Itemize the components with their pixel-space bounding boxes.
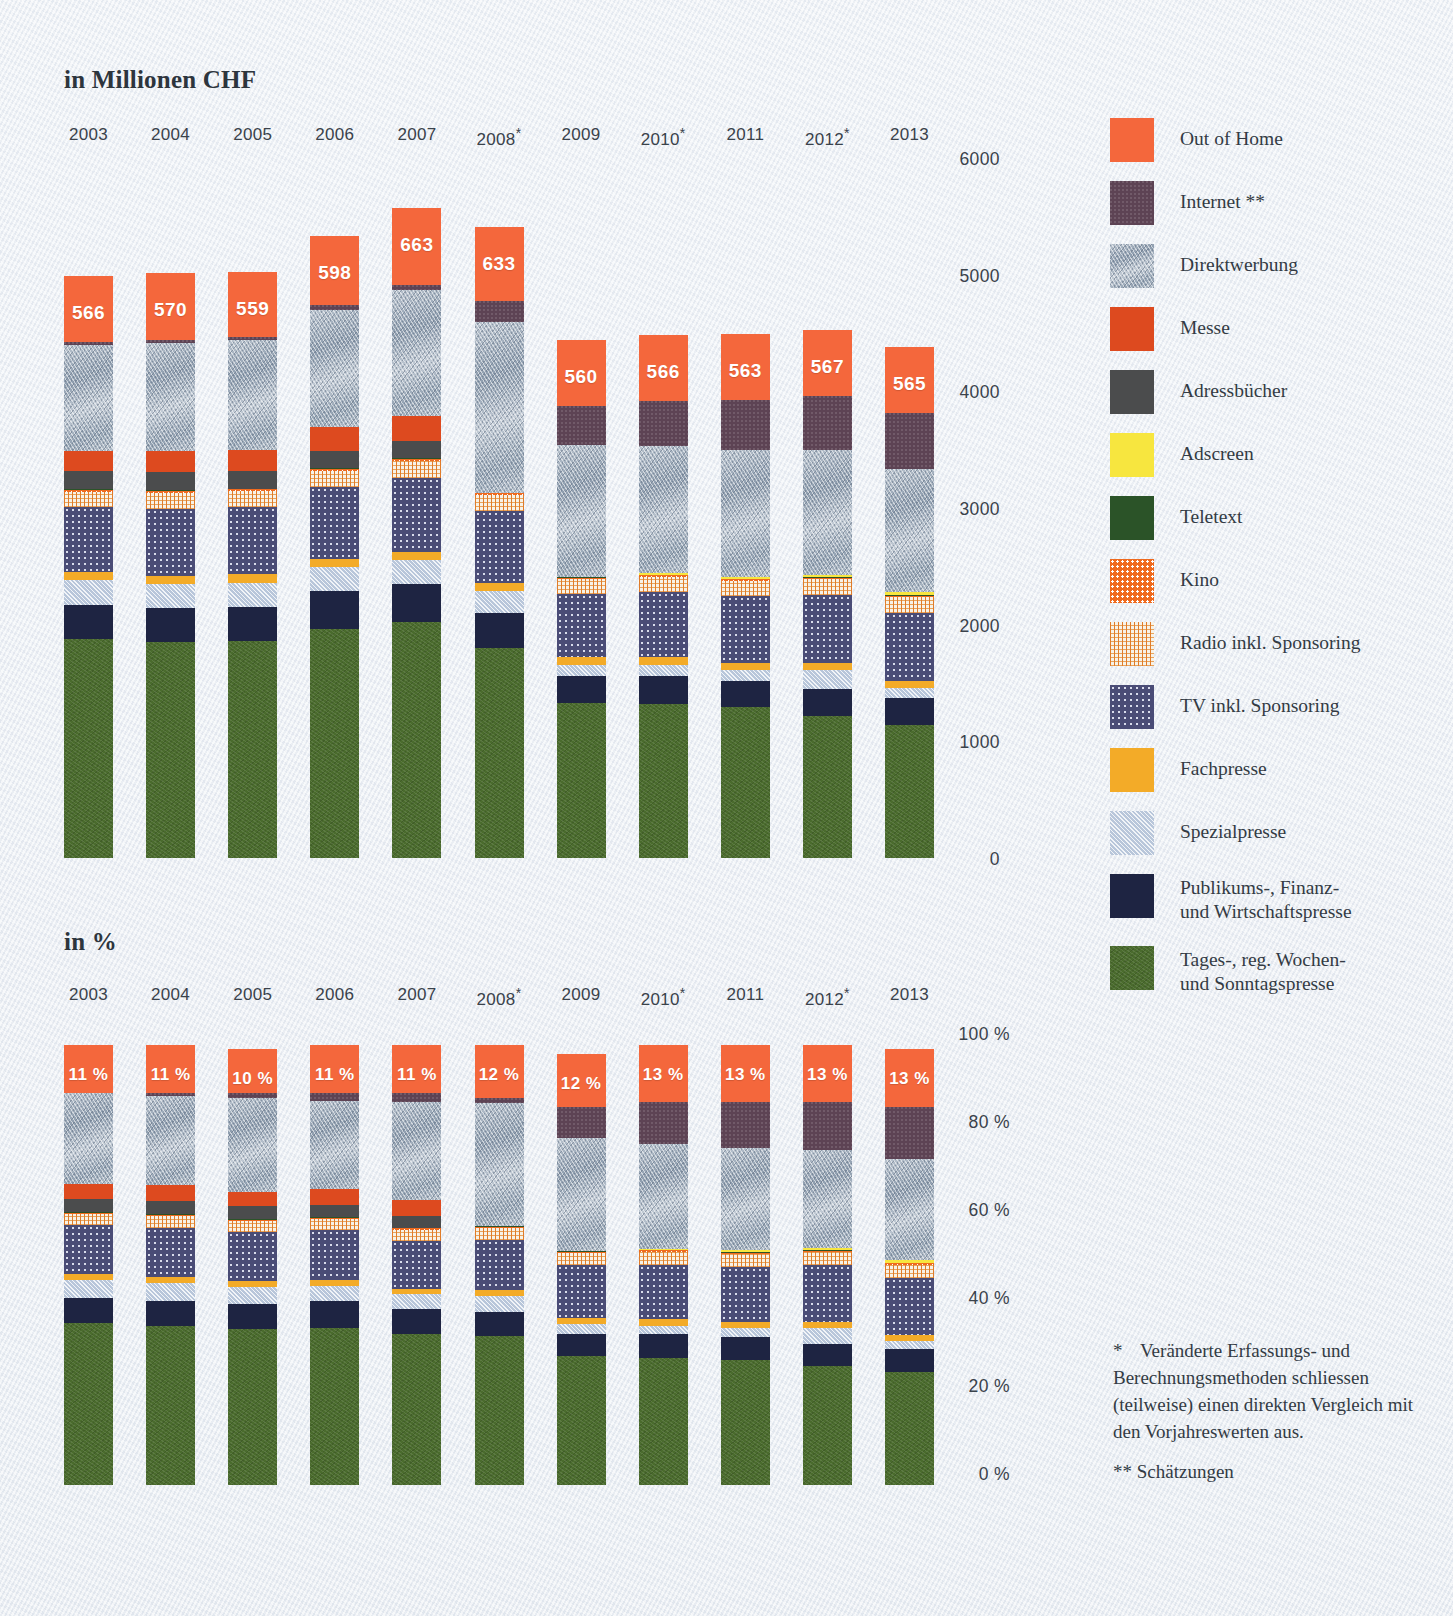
segment-tv-2009[interactable] (557, 1265, 606, 1317)
segment-spez-2010*[interactable] (639, 665, 688, 676)
legend-item-ads[interactable]: Adscreen (1110, 433, 1440, 496)
segment-ooh-2005[interactable]: 559 (228, 272, 277, 337)
bar-2007[interactable]: 11 % (392, 1045, 441, 1485)
segment-spez-2011[interactable] (721, 1328, 770, 1337)
segment-dir-2007[interactable] (392, 1102, 441, 1200)
segment-dir-2008*[interactable] (475, 1103, 524, 1226)
segment-fach-2005[interactable] (228, 574, 277, 582)
segment-tv-2007[interactable] (392, 478, 441, 553)
bar-2003[interactable]: 566 (64, 276, 113, 858)
segment-ooh-2006[interactable]: 598 (310, 236, 359, 306)
segment-spez-2005[interactable] (228, 583, 277, 607)
segment-dir-2005[interactable] (228, 1098, 277, 1192)
segment-radio-2012*[interactable] (803, 579, 852, 595)
segment-adr-2003[interactable] (64, 471, 113, 489)
segment-tv-2004[interactable] (146, 1228, 195, 1277)
segment-tages-2013[interactable] (885, 725, 934, 858)
segment-dir-2012*[interactable] (803, 1150, 852, 1249)
segment-tv-2010*[interactable] (639, 1265, 688, 1320)
legend-item-spez[interactable]: Spezialpresse (1110, 811, 1440, 874)
segment-dir-2007[interactable] (392, 290, 441, 416)
segment-tages-2004[interactable] (146, 642, 195, 858)
segment-tv-2004[interactable] (146, 509, 195, 576)
segment-tages-2007[interactable] (392, 1334, 441, 1485)
bar-2013[interactable]: 565 (885, 347, 934, 858)
segment-ooh-2005[interactable]: 10 % (228, 1049, 277, 1093)
segment-ooh-2008*[interactable]: 633 (475, 227, 524, 301)
segment-spez-2003[interactable] (64, 1280, 113, 1298)
segment-ooh-2013[interactable]: 13 % (885, 1049, 934, 1106)
bar-2011[interactable]: 563 (721, 334, 770, 858)
legend-item-kino[interactable]: Kino (1110, 559, 1440, 622)
segment-pub-2006[interactable] (310, 1301, 359, 1327)
segment-tv-2008*[interactable] (475, 511, 524, 582)
segment-tv-2010*[interactable] (639, 592, 688, 657)
bar-2004[interactable]: 570 (146, 273, 195, 858)
segment-adr-2005[interactable] (228, 1206, 277, 1219)
segment-fach-2003[interactable] (64, 572, 113, 580)
segment-tages-2011[interactable] (721, 707, 770, 858)
segment-tv-2006[interactable] (310, 487, 359, 559)
segment-adr-2007[interactable] (392, 1216, 441, 1227)
segment-radio-2010*[interactable] (639, 1252, 688, 1265)
segment-messe-2005[interactable] (228, 450, 277, 470)
segment-radio-2011[interactable] (721, 1254, 770, 1267)
segment-dir-2003[interactable] (64, 1093, 113, 1184)
bar-2008*[interactable]: 633 (475, 227, 524, 858)
segment-pub-2012*[interactable] (803, 689, 852, 716)
segment-adr-2003[interactable] (64, 1199, 113, 1212)
segment-fach-2012*[interactable] (803, 663, 852, 671)
segment-spez-2008*[interactable] (475, 1296, 524, 1312)
bar-2010*[interactable]: 13 % (639, 1045, 688, 1485)
segment-net-2013[interactable] (885, 413, 934, 469)
segment-pub-2012*[interactable] (803, 1344, 852, 1366)
segment-dir-2006[interactable] (310, 310, 359, 428)
segment-tages-2008*[interactable] (475, 1336, 524, 1485)
segment-spez-2006[interactable] (310, 1286, 359, 1302)
segment-radio-2005[interactable] (228, 491, 277, 507)
segment-dir-2004[interactable] (146, 1096, 195, 1186)
segment-ooh-2007[interactable]: 663 (392, 208, 441, 285)
bar-2004[interactable]: 11 % (146, 1045, 195, 1485)
bar-2009[interactable]: 12 % (557, 1054, 606, 1485)
segment-tv-2007[interactable] (392, 1241, 441, 1289)
segment-net-2013[interactable] (885, 1107, 934, 1159)
segment-tages-2010*[interactable] (639, 1358, 688, 1485)
segment-pub-2013[interactable] (885, 698, 934, 725)
segment-spez-2013[interactable] (885, 688, 934, 699)
segment-pub-2006[interactable] (310, 591, 359, 630)
segment-pub-2007[interactable] (392, 1309, 441, 1334)
segment-dir-2008*[interactable] (475, 322, 524, 492)
segment-pub-2010*[interactable] (639, 676, 688, 704)
segment-ooh-2006[interactable]: 11 % (310, 1045, 359, 1093)
segment-radio-2007[interactable] (392, 1230, 441, 1241)
segment-spez-2010*[interactable] (639, 1326, 688, 1335)
segment-radio-2011[interactable] (721, 581, 770, 596)
segment-net-2009[interactable] (557, 1107, 606, 1138)
segment-dir-2010*[interactable] (639, 1144, 688, 1249)
segment-messe-2003[interactable] (64, 451, 113, 471)
segment-fach-2009[interactable] (557, 1318, 606, 1325)
segment-ooh-2013[interactable]: 565 (885, 347, 934, 413)
segment-pub-2008*[interactable] (475, 1312, 524, 1337)
bar-2012*[interactable]: 13 % (803, 1045, 852, 1485)
segment-messe-2007[interactable] (392, 1200, 441, 1216)
legend-item-pub[interactable]: Publikums-, Finanz- und Wirtschaftspress… (1110, 874, 1440, 946)
segment-messe-2005[interactable] (228, 1192, 277, 1207)
legend-item-net[interactable]: Internet ** (1110, 181, 1440, 244)
segment-ooh-2003[interactable]: 11 % (64, 1045, 113, 1093)
segment-fach-2010*[interactable] (639, 1319, 688, 1326)
segment-radio-2009[interactable] (557, 579, 606, 594)
bar-2003[interactable]: 11 % (64, 1045, 113, 1485)
segment-tages-2007[interactable] (392, 622, 441, 858)
segment-spez-2011[interactable] (721, 670, 770, 681)
segment-dir-2003[interactable] (64, 345, 113, 451)
segment-ooh-2010*[interactable]: 566 (639, 335, 688, 401)
segment-radio-2008*[interactable] (475, 495, 524, 511)
segment-pub-2013[interactable] (885, 1349, 934, 1372)
segment-net-2007[interactable] (392, 1093, 441, 1102)
segment-dir-2004[interactable] (146, 343, 195, 452)
segment-dir-2013[interactable] (885, 469, 934, 593)
segment-tages-2012*[interactable] (803, 716, 852, 858)
segment-tages-2009[interactable] (557, 1356, 606, 1485)
